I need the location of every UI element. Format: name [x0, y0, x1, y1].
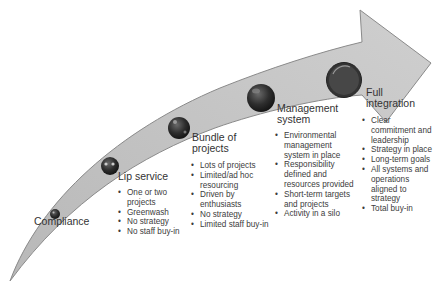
bullet-item: Strategy in place — [362, 145, 437, 155]
stage-title-management-system: Management system — [277, 103, 338, 125]
stage-bullets-management-system: Environmental management system in place… — [275, 131, 355, 219]
stage-title-lip-service: Lip service — [118, 171, 168, 182]
bullet-item: Total buy-in — [362, 204, 437, 214]
bullet-item: No staff buy-in — [118, 227, 190, 237]
stage-title-line: integration — [366, 98, 415, 109]
stage-bullets-bundle-of-projects: Lots of projects Limited/ad hoc resourci… — [191, 161, 269, 230]
bullet-item: Lots of projects — [191, 161, 269, 171]
bullet-item: Limited/ad hoc resourcing — [191, 171, 269, 191]
bullet-item: Long-term goals — [362, 155, 437, 165]
bullet-item: No strategy — [118, 217, 190, 227]
bullet-item: All systems and operations aligned to st… — [362, 165, 437, 204]
bullet-item: Environmental management system in place — [275, 131, 355, 160]
stage-title-line: system — [277, 114, 338, 125]
stage-title-compliance: Compliance — [34, 216, 89, 227]
bullet-item: One or two projects — [118, 188, 190, 208]
bullet-item: Greenwash — [118, 208, 190, 218]
stage-bullets-lip-service: One or two projects Greenwash No strateg… — [118, 188, 190, 237]
bullet-item: No strategy — [191, 210, 269, 220]
bullet-item: Clear commitment and leadership — [362, 116, 437, 145]
bullet-item: Responsibility defined and resources pro… — [275, 160, 355, 189]
stage-marker-bundle-of-projects — [168, 117, 190, 139]
stage-title-line: projects — [192, 143, 236, 154]
stage-title-bundle-of-projects: Bundle of projects — [192, 132, 236, 154]
bullet-item: Driven by enthusiasts — [191, 190, 269, 210]
stage-bullets-full-integration: Clear commitment and leadership Strategy… — [362, 116, 437, 214]
bullet-item: Limited staff buy-in — [191, 220, 269, 230]
stage-marker-management-system — [247, 84, 275, 112]
stage-marker-lip-service — [101, 157, 119, 175]
bullet-item: Short-term targets and projects — [275, 190, 355, 210]
stage-title-full-integration: Full integration — [366, 87, 415, 109]
stage-marker-full-integration — [327, 63, 362, 98]
bullet-item: Activity in a silo — [275, 209, 355, 219]
